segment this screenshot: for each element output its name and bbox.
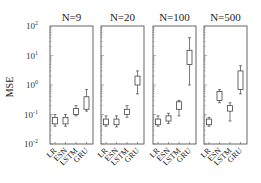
y-tick-label: 101 xyxy=(26,50,38,61)
box-esn xyxy=(166,113,171,123)
box-lr xyxy=(207,117,212,126)
panel-n-20: N=20LRESNLSTMGRU xyxy=(96,11,144,168)
panel-title: N=100 xyxy=(159,11,190,23)
box-lstm xyxy=(228,103,233,121)
y-tick-label: 100 xyxy=(26,79,38,90)
box-gru xyxy=(84,90,89,112)
y-tick-label: 102 xyxy=(26,20,38,31)
panel-n-100: N=100LRESNLSTMGRU xyxy=(148,11,196,168)
box-gru xyxy=(238,66,243,94)
box-gru xyxy=(135,71,140,94)
box-esn xyxy=(114,116,119,127)
box-plot-chart: 10-210-1100101102 MSE N=9LRESNLSTMGRUN=2… xyxy=(0,0,261,183)
panel-title: N=9 xyxy=(62,11,82,23)
box-gru xyxy=(187,38,192,85)
y-tick-label: 10-1 xyxy=(24,109,38,120)
panel-n-500: N=500LRESNLSTMGRU xyxy=(199,11,247,168)
box-lstm xyxy=(74,106,79,116)
box-lr xyxy=(104,116,109,126)
box-lstm xyxy=(125,106,130,118)
box-lr xyxy=(53,115,58,127)
box-lr xyxy=(156,116,161,126)
panel-title: N=20 xyxy=(110,11,136,23)
y-axis: 10-210-1100101102 xyxy=(24,20,38,149)
box-esn xyxy=(217,90,222,103)
panel-title: N=500 xyxy=(210,11,241,23)
y-axis-label: MSE xyxy=(4,77,15,98)
panel-n-9: N=9LRESNLSTMGRU xyxy=(45,11,93,168)
box-esn xyxy=(63,115,68,127)
box-lstm xyxy=(177,100,182,115)
y-tick-label: 10-2 xyxy=(24,138,38,149)
panels: N=9LRESNLSTMGRUN=20LRESNLSTMGRUN=100LRES… xyxy=(45,11,247,168)
